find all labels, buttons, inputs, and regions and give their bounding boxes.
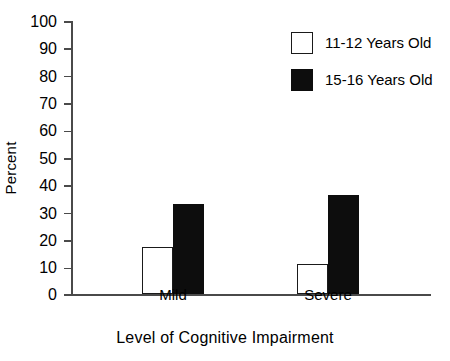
y-tick-10: 10 bbox=[64, 268, 71, 270]
y-tick-50: 50 bbox=[64, 158, 71, 160]
y-tick-90: 90 bbox=[64, 48, 71, 50]
x-tick-label-severe: Severe bbox=[304, 286, 352, 303]
y-tick-label-40: 40 bbox=[39, 178, 57, 194]
y-tick-label-30: 30 bbox=[39, 206, 57, 222]
y-tick-label-100: 100 bbox=[30, 14, 57, 30]
y-tick-label-60: 60 bbox=[39, 123, 57, 139]
x-axis-title: Level of Cognitive Impairment bbox=[0, 329, 450, 347]
y-tick-0: 0 bbox=[64, 294, 71, 296]
legend: 11-12 Years Old 15-16 Years Old bbox=[291, 24, 433, 98]
x-tick-label-mild: Mild bbox=[159, 286, 187, 303]
y-tick-70: 70 bbox=[64, 103, 71, 105]
y-axis-line bbox=[71, 21, 73, 295]
y-tick-80: 80 bbox=[64, 76, 71, 78]
legend-item-11-12: 11-12 Years Old bbox=[291, 24, 433, 61]
y-tick-label-90: 90 bbox=[39, 41, 57, 57]
bar-chart: Percent 100 90 80 70 60 50 40 30 20 bbox=[0, 0, 450, 361]
y-tick-label-50: 50 bbox=[39, 151, 57, 167]
bar-mild-15-16 bbox=[173, 204, 204, 294]
y-tick-30: 30 bbox=[64, 213, 71, 215]
y-axis-title: Percent bbox=[2, 108, 19, 228]
legend-swatch-open-icon bbox=[291, 32, 313, 54]
y-tick-label-0: 0 bbox=[48, 287, 57, 303]
legend-swatch-filled-icon bbox=[291, 69, 313, 91]
y-tick-label-20: 20 bbox=[39, 233, 57, 249]
y-tick-label-10: 10 bbox=[39, 260, 57, 276]
legend-label-15-16: 15-16 Years Old bbox=[325, 71, 433, 88]
legend-item-15-16: 15-16 Years Old bbox=[291, 61, 433, 98]
y-tick-100: 100 bbox=[64, 21, 71, 23]
y-tick-label-80: 80 bbox=[39, 69, 57, 85]
legend-label-11-12: 11-12 Years Old bbox=[325, 34, 431, 51]
y-tick-40: 40 bbox=[64, 185, 71, 187]
x-axis-line bbox=[71, 294, 431, 296]
bar-severe-15-16 bbox=[328, 195, 359, 294]
y-tick-label-70: 70 bbox=[39, 96, 57, 112]
y-tick-60: 60 bbox=[64, 131, 71, 133]
y-tick-20: 20 bbox=[64, 240, 71, 242]
